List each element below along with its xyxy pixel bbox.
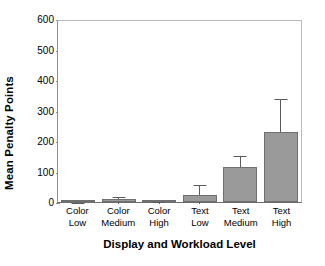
x-axis-tick-labels: ColorLowColorMediumColorHighTextLowTextM… <box>57 205 302 235</box>
x-tick-label-line: High <box>139 217 179 229</box>
x-tick-label: TextLow <box>180 205 220 235</box>
x-tick-label-line: Low <box>180 217 220 229</box>
error-bar-cap-upper <box>274 99 287 100</box>
bar[interactable] <box>223 167 257 202</box>
y-tick-label: 500 <box>18 46 54 56</box>
error-bar <box>72 203 85 204</box>
y-axis-tick-labels: 0100200300400500600 <box>18 0 54 266</box>
bar-slot <box>58 21 98 202</box>
x-tick-label: ColorMedium <box>98 205 138 235</box>
y-tick-label: 0 <box>18 198 54 208</box>
bar[interactable] <box>142 200 176 202</box>
bar-series <box>58 21 301 202</box>
error-bar-cap-upper <box>234 156 247 157</box>
y-tick-label: 300 <box>18 107 54 117</box>
bar-slot <box>180 21 220 202</box>
y-tick-mark <box>56 203 60 204</box>
y-axis-title: Mean Penalty Points <box>0 0 18 266</box>
bar[interactable] <box>264 132 298 202</box>
x-tick-label-line: Color <box>57 205 97 217</box>
y-tick-label: 100 <box>18 168 54 178</box>
error-bar-cap-upper <box>193 185 206 186</box>
y-tick-label: 200 <box>18 137 54 147</box>
x-axis-title: Display and Workload Level <box>57 238 302 250</box>
error-bar-cap-upper <box>153 202 166 203</box>
x-tick-label: TextMedium <box>221 205 261 235</box>
bar-slot <box>220 21 260 202</box>
x-tick-label: TextHigh <box>262 205 302 235</box>
bar-slot <box>139 21 179 202</box>
bar[interactable] <box>102 199 136 202</box>
x-tick-label: ColorLow <box>57 205 97 235</box>
x-tick-label-line: High <box>262 217 302 229</box>
bar[interactable] <box>183 195 217 202</box>
y-tick-label: 600 <box>18 15 54 25</box>
x-tick-label-line: Text <box>180 205 220 217</box>
x-tick-label-line: Color <box>98 205 138 217</box>
error-bar <box>153 202 166 204</box>
y-tick-label: 400 <box>18 76 54 86</box>
x-tick-label-line: Medium <box>98 217 138 229</box>
plot-area <box>57 20 302 203</box>
bar-slot <box>99 21 139 202</box>
penalty-points-bar-chart: Mean Penalty Points 0100200300400500600 … <box>0 0 325 266</box>
x-tick-label-line: Text <box>221 205 261 217</box>
x-tick-label-line: Medium <box>221 217 261 229</box>
x-tick-label-line: Color <box>139 205 179 217</box>
x-tick-label-line: Text <box>262 205 302 217</box>
bar-slot <box>261 21 301 202</box>
x-tick-label-line: Low <box>57 217 97 229</box>
error-bar-cap-upper <box>72 203 85 204</box>
x-tick-label: ColorHigh <box>139 205 179 235</box>
bar[interactable] <box>61 200 95 202</box>
